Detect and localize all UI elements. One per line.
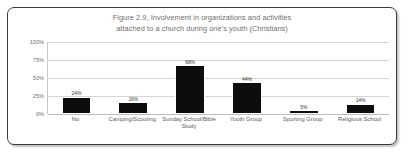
bar-series: 24% 16% 68% 44% 5% [48,42,389,114]
plot-wrapper: 100% 75% 50% 25% 0% 24% 16% [8,42,398,146]
bar-slot-camping-scouting: 16% [105,42,162,114]
y-axis: 100% 75% 50% 25% 0% [18,42,44,114]
y-tick-label-75: 75% [18,57,44,63]
bar-value-religious-school: 14% [332,97,389,103]
bar-value-sporting-group: 5% [275,104,332,110]
bar-slot-sunday-school-bible-study: 68% [162,42,219,114]
y-tick-label-100: 100% [18,39,44,45]
bar-value-youth-group: 44% [218,76,275,82]
x-label-youth-group: Youth Group [217,116,274,130]
bar-youth-group [232,82,262,114]
y-tick-label-0: 0% [18,111,44,117]
bar-slot-sporting-group: 5% [275,42,332,114]
bar-value-sunday-school-bible-study: 68% [162,59,219,65]
x-axis: No Camping/Scouting Sunday School/Bible … [47,116,388,130]
x-label-camping-scouting: Camping/Scouting [104,116,161,130]
gridline-0 [48,114,389,115]
bar-sunday-school-bible-study [175,65,205,114]
x-label-religious-school: Religious School [331,116,388,130]
y-tick-label-50: 50% [18,75,44,81]
chart-title: Figure 2.9, Involvement in organizations… [8,13,396,34]
bar-value-camping-scouting: 16% [105,96,162,102]
figure-frame: Figure 2.9, Involvement in organizations… [7,7,397,145]
bar-no [62,97,92,114]
bar-slot-no: 24% [48,42,105,114]
bar-slot-religious-school: 14% [332,42,389,114]
bar-sporting-group [289,110,319,114]
plot-area: 24% 16% 68% 44% 5% [47,42,389,114]
bar-slot-youth-group: 44% [218,42,275,114]
y-tick-label-25: 25% [18,93,44,99]
x-label-sporting-group: Sporting Group [274,116,331,130]
bar-value-no: 24% [48,90,105,96]
bar-religious-school [346,104,376,114]
x-label-no: No [47,116,104,130]
bar-camping-scouting [118,102,148,114]
x-label-sunday-school-bible-study: Sunday School/Bible Study [161,116,218,130]
